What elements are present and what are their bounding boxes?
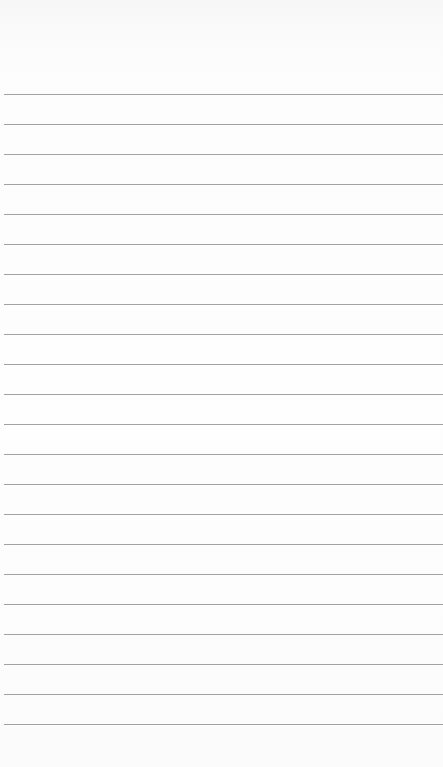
ruled-line (4, 604, 443, 605)
ruled-line (4, 724, 443, 725)
ruled-line (4, 124, 443, 125)
ruled-line (4, 484, 443, 485)
ruled-line (4, 304, 443, 305)
ruled-line (4, 334, 443, 335)
ruled-line (4, 424, 443, 425)
ruled-line (4, 694, 443, 695)
ruled-line (4, 574, 443, 575)
ruled-line (4, 394, 443, 395)
ruled-line (4, 94, 443, 95)
ruled-line (4, 664, 443, 665)
ruled-line (4, 274, 443, 275)
lined-notepad-page (0, 0, 443, 767)
ruled-line (4, 544, 443, 545)
ruled-line (4, 214, 443, 215)
ruled-line (4, 634, 443, 635)
ruled-line (4, 364, 443, 365)
ruled-line (4, 454, 443, 455)
blank-header-area (0, 0, 443, 94)
ruled-line (4, 154, 443, 155)
ruled-line (4, 244, 443, 245)
ruled-line (4, 184, 443, 185)
ruled-line (4, 514, 443, 515)
